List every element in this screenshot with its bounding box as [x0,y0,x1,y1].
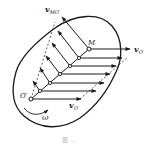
dashed-guide-left [31,22,55,99]
point-O-prime [29,97,33,101]
label-v-O-bottom: vO′ [69,100,80,111]
rotation-velocity-arrows [33,17,89,91]
label-O-prime: O′ [20,92,28,100]
label-v-MO: vMO′ [45,4,61,15]
rigid-body-velocity-diagram: vMO′ M vO′ O′ vO′ ω 图 … [0,0,153,145]
label-omega: ω [42,113,49,122]
rigid-body-outline [13,16,121,126]
label-v-O-right: vO′ [134,44,145,55]
figure-caption: 图 … [62,136,76,144]
label-M: M [87,39,96,47]
point-M [87,47,91,51]
